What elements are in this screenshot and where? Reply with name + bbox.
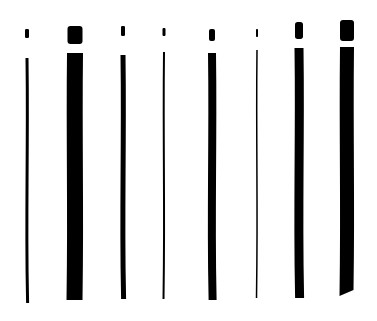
ink-stem	[208, 53, 217, 300]
letter-i-stroke	[208, 29, 217, 300]
letter-i-stroke	[120, 26, 126, 299]
ink-stem	[25, 58, 29, 303]
ink-stem	[120, 55, 126, 299]
ink-dot	[25, 29, 29, 38]
ink-dot	[163, 28, 166, 36]
ink-stem	[294, 48, 304, 298]
letter-i-stroke	[67, 26, 84, 300]
ink-stem	[340, 47, 355, 296]
ink-dot	[68, 26, 83, 44]
ink-dot	[121, 26, 125, 36]
letter-i-stroke	[256, 29, 258, 298]
ink-dot	[209, 29, 215, 41]
ink-stem	[163, 52, 166, 299]
letter-i-stroke	[25, 29, 29, 303]
ink-strokes-illustration	[0, 0, 377, 321]
ink-dot	[256, 29, 258, 37]
letter-i-stroke	[294, 22, 304, 298]
ink-stem	[67, 53, 84, 300]
letter-i-stroke	[163, 28, 166, 299]
ink-stem	[256, 50, 258, 298]
ink-dot	[295, 22, 303, 39]
letter-i-stroke	[340, 20, 355, 296]
ink-dot	[340, 20, 354, 41]
